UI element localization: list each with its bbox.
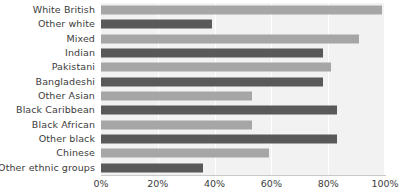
category-label: Indian bbox=[65, 48, 95, 58]
bar-other-black[interactable] bbox=[101, 135, 337, 144]
chart-row: Bangladeshi bbox=[0, 75, 409, 89]
bar-track bbox=[101, 75, 385, 89]
chart-row: White British bbox=[0, 3, 409, 17]
chart-rows: White British Other white Mixed Indian P bbox=[0, 3, 409, 175]
bar-track bbox=[101, 132, 385, 146]
x-tick-label: 0% bbox=[93, 177, 108, 191]
chart-row: Indian bbox=[0, 46, 409, 60]
bar-track bbox=[101, 161, 385, 175]
bar-other-asian[interactable] bbox=[101, 92, 252, 101]
x-tick-label: 80% bbox=[318, 177, 339, 191]
category-label: Black Caribbean bbox=[16, 106, 95, 116]
x-axis-line bbox=[101, 175, 386, 176]
bar-black-african[interactable] bbox=[101, 120, 252, 129]
category-label: Pakistani bbox=[52, 63, 95, 73]
category-label: Other ethnic groups bbox=[0, 163, 95, 173]
bar-white-british[interactable] bbox=[101, 6, 382, 15]
category-label: Other black bbox=[39, 134, 95, 144]
bar-track bbox=[101, 118, 385, 132]
chart-row: Mixed bbox=[0, 32, 409, 46]
bar-track bbox=[101, 17, 385, 31]
bar-track bbox=[101, 3, 385, 17]
category-label: Other white bbox=[38, 20, 95, 30]
chart-row: Other Asian bbox=[0, 89, 409, 103]
bar-indian[interactable] bbox=[101, 49, 323, 58]
category-label: Chinese bbox=[56, 149, 95, 159]
category-label: Mixed bbox=[66, 34, 95, 44]
category-label: Black African bbox=[32, 120, 95, 130]
x-tick-label: 100% bbox=[371, 177, 398, 191]
bar-track bbox=[101, 146, 385, 160]
bar-pakistani[interactable] bbox=[101, 63, 331, 72]
bar-track bbox=[101, 32, 385, 46]
bar-mixed[interactable] bbox=[101, 34, 359, 43]
x-tick-label: 20% bbox=[147, 177, 168, 191]
bar-bangladeshi[interactable] bbox=[101, 77, 323, 86]
bar-chart: White British Other white Mixed Indian P bbox=[0, 0, 409, 196]
x-tick-label: 60% bbox=[261, 177, 282, 191]
chart-row: Pakistani bbox=[0, 60, 409, 74]
chart-row: Chinese bbox=[0, 146, 409, 160]
bar-other-white[interactable] bbox=[101, 20, 212, 29]
bar-track bbox=[101, 46, 385, 60]
x-tick-label: 40% bbox=[204, 177, 225, 191]
chart-row: Black African bbox=[0, 118, 409, 132]
bar-track bbox=[101, 103, 385, 117]
chart-row: Other ethnic groups bbox=[0, 161, 409, 175]
category-label: Other Asian bbox=[38, 91, 95, 101]
x-axis-ticks: 0% 20% 40% 60% 80% 100% bbox=[0, 177, 409, 193]
bar-track bbox=[101, 60, 385, 74]
bar-track bbox=[101, 89, 385, 103]
bar-black-caribbean[interactable] bbox=[101, 106, 337, 115]
category-label: Bangladeshi bbox=[36, 77, 95, 87]
bar-chinese[interactable] bbox=[101, 149, 269, 158]
chart-row: Black Caribbean bbox=[0, 103, 409, 117]
chart-row: Other black bbox=[0, 132, 409, 146]
bar-other-ethnic-groups[interactable] bbox=[101, 163, 203, 172]
category-label: White British bbox=[33, 5, 95, 15]
chart-row: Other white bbox=[0, 17, 409, 31]
